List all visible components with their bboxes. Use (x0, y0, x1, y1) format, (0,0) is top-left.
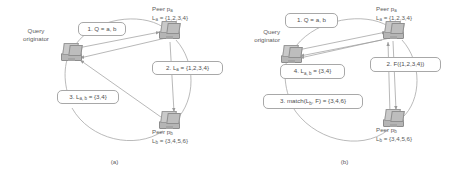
node-peer-a (158, 20, 180, 40)
callout-message-1: 1. Q = a, b (78, 22, 126, 36)
workstation-stand-icon (288, 60, 295, 63)
figure-container: Query originator Peer pa La = {1,2,3,4} … (0, 0, 459, 178)
node-query-originator (280, 44, 302, 64)
panel-a: Query originator Peer pa La = {1,2,3,4} … (0, 0, 229, 178)
callout-message-1: 1. Q = a, b (285, 13, 338, 28)
panel-b-connections (230, 0, 459, 178)
workstation-monitor2-icon (390, 111, 405, 122)
label-peer-b: Peer pb Lb = {3,4,5,6} (152, 128, 188, 146)
node-query-originator (60, 42, 82, 62)
node-peer-b (158, 110, 180, 130)
callout-message-3: 3. La, b = {3,4} (57, 90, 119, 104)
callout-message-2: 2. F({1,2,3,4}) (370, 57, 441, 72)
label-peer-a: Peer pa La = {1,2,3,4} (152, 5, 188, 23)
callout-message-3: 3. match(Lb, F) = {3,4,6} (263, 94, 363, 109)
label-peer-a: Peer pa La = {1,2,3,4} (376, 5, 412, 23)
workstation-monitor2-icon (166, 23, 181, 34)
label-peer-b: Peer pb Lb = {3,4,5,6} (376, 126, 412, 144)
workstation-monitor2-icon (68, 45, 83, 56)
caption-panel-b: (b) (230, 158, 459, 165)
caption-panel-a: (a) (0, 158, 229, 165)
panel-b: Query originator Peer pa La = {1,2,3,4} … (230, 0, 459, 178)
callout-message-4: 4. La, b = {3,4} (280, 64, 345, 79)
node-peer-a (382, 20, 404, 40)
workstation-monitor2-icon (166, 113, 181, 124)
label-query-originator: Query originator (230, 28, 280, 44)
workstation-monitor2-icon (390, 23, 405, 34)
workstation-stand-icon (68, 58, 75, 61)
label-query-originator: Query originator (11, 27, 61, 43)
workstation-stand-icon (166, 36, 173, 39)
callout-message-2: 2. La = {1,2,3,4} (152, 61, 223, 75)
node-peer-b (382, 108, 404, 128)
workstation-stand-icon (390, 36, 397, 39)
workstation-monitor2-icon (288, 47, 303, 58)
